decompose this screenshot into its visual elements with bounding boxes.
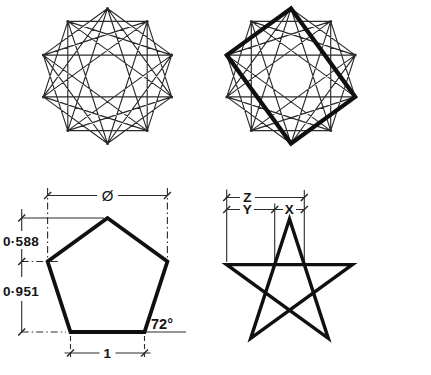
decagon-vertex-dot [42, 95, 45, 98]
decagon-vertex-dot [250, 129, 253, 132]
figure-canvas: Ø 0·588 0·951 72° 1 Z Y X [0, 0, 431, 375]
decagon-vertex-dot [354, 54, 357, 57]
decagon-vertex-dot [42, 54, 45, 57]
height-upper-label: 0·588 [3, 234, 39, 249]
decagram-chords [227, 9, 355, 144]
span-y-label: Y [243, 202, 252, 217]
decagram-highlighted-figure [225, 7, 356, 145]
span-x-label: X [285, 202, 294, 217]
pentagram-dimension-figure: Z Y X [223, 190, 352, 339]
corner-angle-label: 72° [151, 316, 173, 332]
pentagon-dimension-figure: Ø 0·588 0·951 72° 1 [3, 187, 186, 361]
decagon-vertex-dot [329, 20, 332, 23]
decagram-plain-figure [42, 7, 173, 145]
decagram-vertex-dots [42, 7, 173, 145]
highlighted-rectangle [227, 9, 355, 144]
diameter-symbol-label: Ø [102, 187, 114, 204]
height-lower-label: 0·951 [3, 284, 39, 299]
decagon-vertex-dot [66, 20, 69, 23]
decagon-vertex-dot [146, 129, 149, 132]
decagon-vertex-dot [329, 129, 332, 132]
dimension-arrow-ticks [223, 194, 308, 213]
decagon-vertex-dot [250, 20, 253, 23]
book-figure-page: Ø 0·588 0·951 72° 1 Z Y X [0, 0, 431, 375]
pentagram-outline [227, 219, 353, 338]
base-length-label: 1 [104, 346, 112, 361]
decagram-chords [43, 9, 171, 144]
decagon-vertex-dot [106, 7, 109, 10]
decagon-vertex-dot [66, 129, 69, 132]
decagon-vertex-dot [146, 20, 149, 23]
decagon-vertex-dot [170, 54, 173, 57]
pentagon-outline [48, 218, 168, 332]
decagon-vertex-dot [106, 142, 109, 145]
decagon-vertex-dot [170, 95, 173, 98]
decagon-vertex-dot [225, 95, 228, 98]
decagram-vertex-dots [225, 7, 356, 145]
